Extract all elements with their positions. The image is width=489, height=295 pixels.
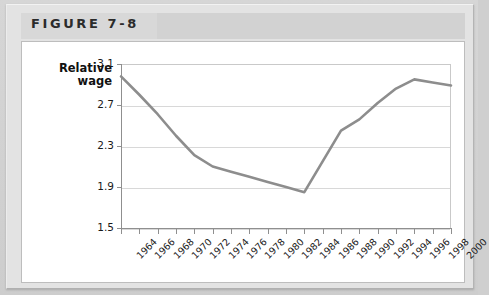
series-polyline xyxy=(121,76,451,192)
chart-card: Relativewage 3.12.72.31.91.5 19641966196… xyxy=(21,41,465,283)
figure-title: FIGURE 7-8 xyxy=(31,16,139,31)
line-series-relative-wage xyxy=(22,42,464,282)
figure-plate: FIGURE 7-8 Relativewage 3.12.72.31.91.5 … xyxy=(6,4,474,289)
